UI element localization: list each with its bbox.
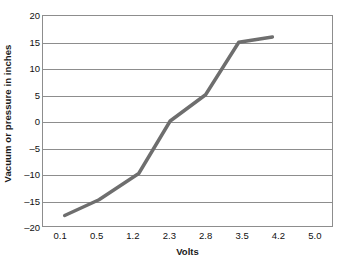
x-axis-tick-label: 3.5 [235, 230, 248, 241]
data-line-svg [43, 16, 332, 226]
y-axis-tick-label: –20 [24, 222, 40, 233]
y-axis-tick-labels: 20151050–5–10–15–20 [14, 15, 40, 227]
chart-container: Vacuum or pressure in inches 20151050–5–… [0, 0, 340, 267]
x-axis-tick-label: 1.2 [126, 230, 139, 241]
x-axis-tick-label: 5.0 [308, 230, 321, 241]
y-axis-tick-label: 15 [29, 36, 40, 47]
y-axis-tick-label: –10 [24, 169, 40, 180]
y-axis-tick-label: 10 [29, 63, 40, 74]
y-axis-title-label: Vacuum or pressure in inches [3, 45, 14, 183]
x-axis-tick-labels: 0.10.51.22.32.83.54.25.0 [42, 230, 333, 246]
y-axis-tick-label: 5 [35, 89, 40, 100]
x-axis-tick-label: 2.3 [163, 230, 176, 241]
y-axis-tick-label: 0 [35, 116, 40, 127]
x-axis-tick-label: 2.8 [199, 230, 212, 241]
x-axis-tick-label: 0.1 [54, 230, 67, 241]
x-axis-tick-label: 0.5 [90, 230, 103, 241]
x-axis-tick-label: 4.2 [272, 230, 285, 241]
y-axis-tick-label: –15 [24, 195, 40, 206]
data-series-line [65, 37, 273, 216]
y-axis-tick-label: 20 [29, 10, 40, 21]
plot-area [42, 15, 333, 227]
x-axis-title: Volts [42, 246, 333, 257]
y-axis-tick-label: –5 [29, 142, 40, 153]
